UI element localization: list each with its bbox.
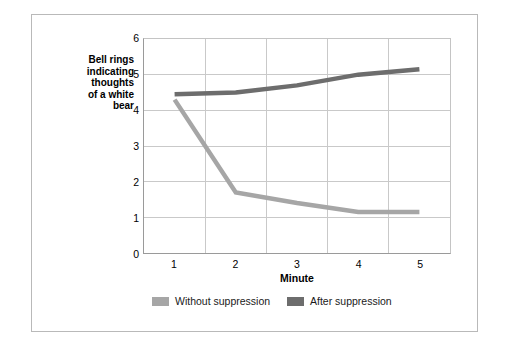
x-tick-label-5: 5 xyxy=(405,258,435,270)
legend-label: Without suppression xyxy=(175,295,270,307)
y-axis-tick-labels: 0123456 xyxy=(109,38,139,254)
legend-item-1[interactable]: After suppression xyxy=(287,294,392,308)
legend-swatch-icon xyxy=(152,297,169,306)
x-axis-title: Minute xyxy=(143,272,451,284)
y-tick-label-2: 2 xyxy=(113,177,139,187)
legend-label: After suppression xyxy=(310,295,392,307)
y-tick-label-6: 6 xyxy=(113,33,139,43)
y-tick-label-5: 5 xyxy=(113,69,139,79)
chart-legend: Without suppressionAfter suppression xyxy=(143,294,451,312)
y-tick-label-4: 4 xyxy=(113,105,139,115)
x-tick-label-2: 2 xyxy=(220,258,250,270)
series-lines xyxy=(144,39,450,253)
plot-area xyxy=(143,38,451,254)
series-line-1 xyxy=(175,69,420,94)
x-tick-label-3: 3 xyxy=(282,258,312,270)
x-tick-label-1: 1 xyxy=(159,258,189,270)
series-line-0 xyxy=(175,100,420,212)
y-tick-label-3: 3 xyxy=(113,141,139,151)
legend-item-0[interactable]: Without suppression xyxy=(152,294,270,308)
x-tick-label-4: 4 xyxy=(344,258,374,270)
y-tick-label-1: 1 xyxy=(113,213,139,223)
legend-swatch-icon xyxy=(287,297,304,306)
y-tick-label-0: 0 xyxy=(113,249,139,259)
figure-canvas: Bell rings indicating thoughts of a whit… xyxy=(0,0,510,346)
